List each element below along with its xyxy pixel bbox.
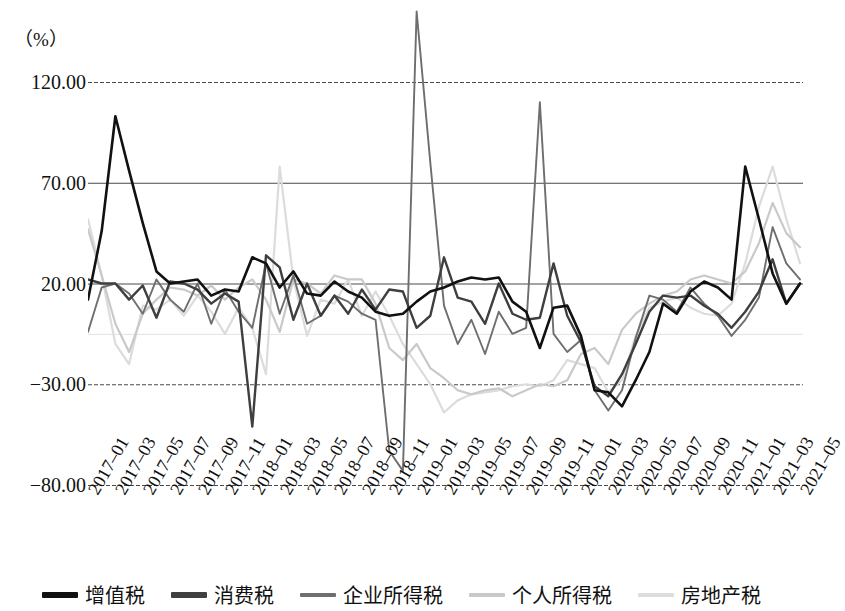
chart-svg [88,0,803,486]
x-axis-tick-labels: 2017–012017–032017–052017–072017–092017–… [0,486,803,586]
legend-label: 消费税 [214,580,274,609]
chart-legend: 增值税消费税企业所得税个人所得税房地产税 [0,578,803,611]
y-axis-tick-label: 20.00 [4,272,86,295]
legend-item[interactable]: 消费税 [171,580,274,609]
legend-label: 企业所得税 [343,580,443,609]
y-axis-tick-label: −30.00 [4,373,86,396]
y-axis-tick-label: 120.00 [4,71,86,94]
legend-item[interactable]: 个人所得税 [469,580,612,609]
legend-swatch-icon [469,593,505,597]
chart-plot-area [88,0,803,486]
legend-swatch-icon [300,593,336,597]
legend-item[interactable]: 增值税 [42,580,145,609]
legend-swatch-icon [171,592,207,598]
legend-label: 个人所得税 [512,580,612,609]
chart-line-series [88,11,800,470]
legend-label: 房地产税 [681,580,761,609]
legend-swatch-icon [42,592,78,598]
legend-item[interactable]: 企业所得税 [300,580,443,609]
legend-item[interactable]: 房地产税 [638,580,761,609]
legend-label: 增值税 [85,580,145,609]
y-axis-tick-label: 70.00 [4,171,86,194]
legend-swatch-icon [638,593,674,597]
